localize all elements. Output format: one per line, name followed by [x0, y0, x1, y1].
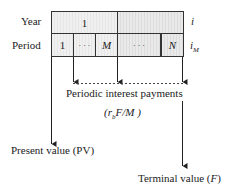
- payments-formula: (rbF/M ): [104, 106, 141, 121]
- terminal-value-label: Terminal value (F): [138, 172, 221, 184]
- formula-suffix: F/M ): [115, 106, 140, 118]
- terminal-prefix: Terminal value (: [138, 172, 211, 184]
- payments-label: Periodic interest payments: [66, 87, 183, 99]
- formula-prefix: (r: [104, 106, 112, 118]
- present-value-label: Present value (PV): [11, 144, 94, 156]
- terminal-suffix: ): [217, 172, 221, 184]
